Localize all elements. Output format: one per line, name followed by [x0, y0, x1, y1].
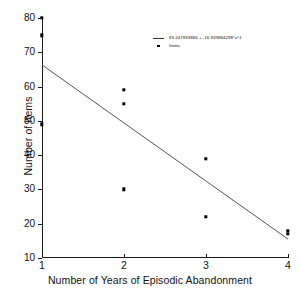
scatter-plot-figure: Number of Items Number of Years of Episo…: [0, 0, 300, 298]
y-tick-label: 60: [24, 81, 35, 92]
legend-marker-swatch-icon: [152, 45, 165, 48]
legend-item-fit: 83.247933884 + -16.933884298*x^1: [152, 34, 242, 42]
y-tick-label: 70: [24, 46, 35, 57]
x-axis-title: Number of Years of Episodic Abandonment: [0, 274, 300, 286]
y-tick-label: 50: [24, 115, 35, 126]
data-point: [286, 232, 289, 235]
y-tick-label: 40: [24, 149, 35, 160]
data-point: [40, 123, 43, 126]
legend-items-label: Items: [169, 42, 180, 50]
x-tick-label: 2: [116, 259, 132, 271]
x-tick: 4: [288, 254, 289, 258]
data-point: [40, 16, 43, 19]
regression-line: [42, 18, 288, 258]
legend-item-items: Items: [152, 42, 242, 50]
legend-line-swatch-icon: [152, 38, 165, 39]
plot-area: 1020304050607080 1234 83.247933884 + -16…: [42, 18, 288, 258]
data-point: [40, 33, 43, 36]
y-tick-label: 20: [24, 218, 35, 229]
x-tick-label: 4: [280, 259, 296, 271]
data-point: [122, 188, 125, 191]
x-tick-label: 3: [198, 259, 214, 271]
y-tick-label: 80: [24, 12, 35, 23]
data-point: [204, 157, 207, 160]
x-tick-label: 1: [34, 259, 50, 271]
data-point: [204, 215, 207, 218]
y-tick-label: 30: [24, 183, 35, 194]
data-point: [122, 102, 125, 105]
data-point: [122, 88, 125, 91]
chart-legend: 83.247933884 + -16.933884298*x^1 Items: [152, 34, 242, 50]
